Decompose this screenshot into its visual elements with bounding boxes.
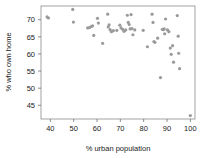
x-tick-label: 40	[46, 124, 54, 133]
data-point	[118, 24, 121, 27]
x-tick-label: 90	[163, 124, 171, 133]
data-point	[150, 13, 153, 16]
y-axis-title: % who own home	[4, 32, 13, 91]
data-point	[129, 13, 132, 16]
data-point	[164, 17, 167, 20]
data-point	[153, 41, 156, 44]
data-point	[115, 29, 118, 32]
data-points-layer	[45, 8, 191, 117]
data-point	[101, 42, 104, 45]
y-tick-label: 65	[27, 33, 35, 42]
data-point	[130, 27, 133, 30]
y-tick-label: 60	[27, 50, 35, 59]
scatter-plot-svg: 405060708090100 455055606570 % urban pop…	[0, 0, 207, 158]
data-point	[156, 37, 159, 40]
data-point	[189, 114, 192, 117]
data-point	[176, 14, 179, 17]
x-tick-label: 60	[93, 124, 101, 133]
y-axis-tick-labels: 455055606570	[27, 15, 35, 110]
y-tick-label: 70	[27, 15, 35, 24]
data-point	[133, 28, 136, 31]
x-axis-tick-labels: 405060708090100	[46, 124, 196, 133]
data-point	[128, 23, 131, 26]
y-tick-label: 45	[27, 101, 35, 110]
data-point	[96, 17, 99, 20]
data-point	[142, 29, 145, 32]
y-tick-label: 55	[27, 67, 35, 76]
x-axis-title: % urban population	[86, 144, 151, 153]
data-point	[170, 53, 173, 56]
data-point	[72, 20, 75, 23]
data-point	[47, 16, 50, 19]
data-point	[163, 32, 166, 35]
data-point	[177, 52, 180, 55]
data-point	[177, 35, 180, 38]
data-point	[126, 14, 129, 17]
x-axis-ticks	[50, 119, 190, 122]
data-point	[172, 61, 175, 64]
data-point	[159, 76, 162, 79]
data-point	[91, 24, 94, 27]
y-axis-ticks	[38, 20, 41, 106]
x-tick-label: 70	[116, 124, 124, 133]
data-point	[108, 23, 111, 26]
x-tick-label: 100	[184, 124, 197, 133]
data-point	[167, 30, 170, 33]
data-point	[178, 67, 181, 70]
x-tick-label: 50	[69, 124, 77, 133]
data-point	[131, 33, 134, 36]
data-point	[124, 28, 127, 31]
scatter-chart: 405060708090100 455055606570 % urban pop…	[0, 0, 207, 158]
plot-frame	[41, 6, 195, 119]
x-tick-label: 80	[139, 124, 147, 133]
data-point	[146, 45, 149, 48]
data-point	[106, 13, 109, 16]
data-point	[71, 8, 74, 11]
data-point	[169, 47, 172, 50]
data-point	[171, 44, 174, 47]
data-point	[151, 21, 154, 24]
data-point	[97, 22, 100, 25]
data-point	[163, 27, 166, 30]
y-tick-label: 50	[27, 84, 35, 93]
data-point	[112, 29, 115, 32]
data-point	[92, 34, 95, 37]
